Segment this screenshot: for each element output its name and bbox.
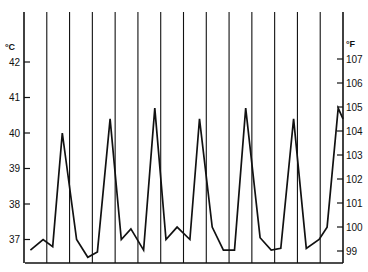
right-tick-label: 106 xyxy=(346,78,363,89)
left-tick-label: 39 xyxy=(9,163,21,174)
right-tick-label: 99 xyxy=(346,246,358,257)
right-tick-label: 104 xyxy=(346,126,363,137)
left-axis-celsius: °C 424140393837 xyxy=(5,42,30,245)
left-tick-label: 42 xyxy=(9,57,21,68)
right-axis-unit: °F xyxy=(346,39,356,49)
right-axis-fahrenheit: °F 10710610510410310210110099 xyxy=(337,39,363,257)
left-tick-label: 38 xyxy=(9,199,21,210)
left-tick-label: 41 xyxy=(9,92,21,103)
right-tick-label: 103 xyxy=(346,150,363,161)
left-tick-label: 37 xyxy=(9,234,21,245)
left-tick-label: 40 xyxy=(9,128,21,139)
right-tick-label: 102 xyxy=(346,174,363,185)
left-axis-unit: °C xyxy=(5,42,16,52)
right-tick-label: 105 xyxy=(346,102,363,113)
temperature-chart: °C 424140393837 °F 107106105104103102101… xyxy=(0,0,368,272)
right-tick-label: 101 xyxy=(346,198,363,209)
temperature-line xyxy=(30,108,343,257)
right-tick-label: 100 xyxy=(346,222,363,233)
right-tick-label: 107 xyxy=(346,54,363,65)
